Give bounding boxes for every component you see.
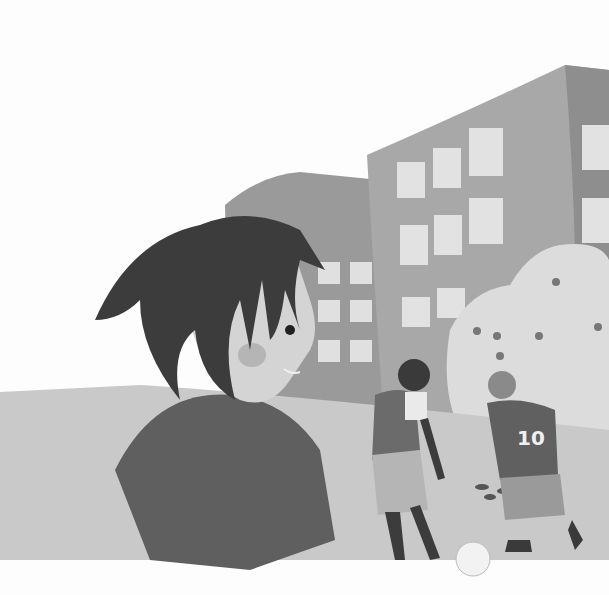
soccer-ball: [456, 542, 490, 576]
schoolyard-illustration: 10: [0, 0, 609, 595]
jersey-number: 10: [517, 426, 545, 450]
illustration-scene: 10: [0, 0, 609, 595]
